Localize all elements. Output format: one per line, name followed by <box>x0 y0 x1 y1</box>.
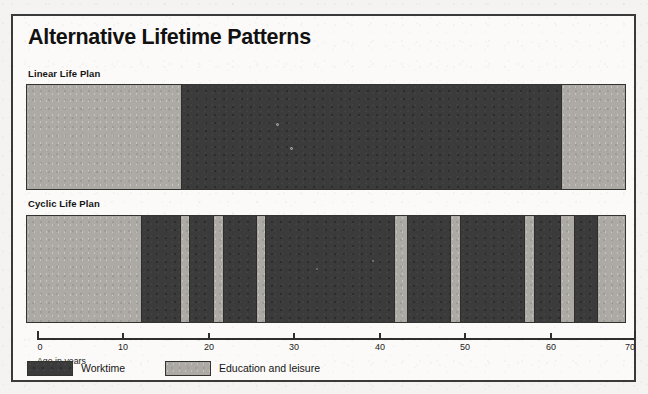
paper-speck-icon <box>372 260 374 262</box>
figure-frame: Alternative Lifetime Patterns Linear Lif… <box>11 14 636 382</box>
segment-worktime <box>223 216 256 322</box>
axis-tick-label: 40 <box>375 342 385 352</box>
segment-education-and-leisure <box>27 85 181 189</box>
axis-line <box>37 338 635 340</box>
bar-linear-life-plan <box>26 84 626 190</box>
axis-tick-label: 0 <box>37 342 42 352</box>
legend-swatch-education-and-leisure <box>165 361 211 376</box>
axis-tick-label: 30 <box>289 342 299 352</box>
legend-label-education-and-leisure: Education and leisure <box>219 362 320 374</box>
panel-label-linear-life-plan: Linear Life Plan <box>28 68 100 79</box>
axis-tick <box>634 331 636 338</box>
axis-tick <box>122 333 124 339</box>
paper-speck-icon <box>290 147 293 150</box>
axis-tick <box>37 331 39 338</box>
axis-tick-label: 10 <box>118 342 128 352</box>
segment-education-and-leisure <box>560 216 574 322</box>
segment-education-and-leisure <box>256 216 265 322</box>
panel-label-cyclic-life-plan: Cyclic Life Plan <box>28 198 100 209</box>
axis-tick-label: 50 <box>460 342 470 352</box>
x-axis: 0 10 20 30 40 50 60 70 <box>37 338 635 339</box>
segment-worktime <box>460 216 524 322</box>
legend-label-worktime: Worktime <box>81 362 125 374</box>
segment-worktime <box>265 216 394 322</box>
axis-tick-label: 60 <box>546 342 556 352</box>
paper-speck-icon <box>316 268 318 270</box>
segment-worktime <box>534 216 560 322</box>
axis-tick <box>208 333 210 339</box>
segment-education-and-leisure <box>27 216 141 322</box>
segment-worktime <box>407 216 450 322</box>
page-title: Alternative Lifetime Patterns <box>28 25 311 50</box>
axis-tick-label: 70 <box>625 342 635 352</box>
paper-speck-icon <box>276 123 279 126</box>
segment-education-and-leisure <box>180 216 189 322</box>
segment-education-and-leisure <box>561 85 625 189</box>
legend-swatch-worktime <box>27 361 73 376</box>
axis-tick-label: 20 <box>204 342 214 352</box>
axis-tick <box>464 333 466 339</box>
segment-worktime <box>141 216 180 322</box>
bar-cyclic-life-plan <box>26 215 626 323</box>
axis-tick <box>550 333 552 339</box>
segment-education-and-leisure <box>597 216 625 322</box>
segment-education-and-leisure <box>213 216 223 322</box>
segment-worktime <box>189 216 213 322</box>
segment-worktime <box>181 85 561 189</box>
segment-education-and-leisure <box>450 216 460 322</box>
axis-tick <box>293 333 295 339</box>
axis-tick <box>379 333 381 339</box>
segment-worktime <box>574 216 597 322</box>
segment-education-and-leisure <box>394 216 407 322</box>
segment-education-and-leisure <box>524 216 534 322</box>
